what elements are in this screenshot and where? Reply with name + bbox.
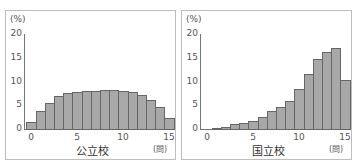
y-unit-label: (%) xyxy=(10,14,26,24)
histogram-bar xyxy=(340,80,350,130)
y-axis xyxy=(24,34,25,129)
histogram-bar xyxy=(164,118,174,130)
x-tick-label: 0 xyxy=(21,132,41,142)
y-unit-label: (%) xyxy=(186,14,202,24)
x-tick-label: 15 xyxy=(335,132,355,142)
y-tick-label: 0 xyxy=(6,123,22,133)
x-tick-label: 10 xyxy=(113,132,133,142)
x-tick-label: 5 xyxy=(243,132,263,142)
y-axis xyxy=(200,34,201,129)
y-tick-label: 0 xyxy=(182,123,198,133)
x-tick-label: 5 xyxy=(67,132,87,142)
x-unit-label: (問) xyxy=(153,143,167,154)
chart-title: 公立校 xyxy=(62,142,122,158)
y-tick-label: 15 xyxy=(182,52,198,62)
x-tick-label: 10 xyxy=(289,132,309,142)
x-tick-label: 15 xyxy=(159,132,179,142)
y-tick-label: 20 xyxy=(182,28,198,38)
chart-title: 国立校 xyxy=(238,142,298,158)
y-tick-label: 5 xyxy=(6,99,22,109)
y-tick-label: 10 xyxy=(182,76,198,86)
y-tick-label: 15 xyxy=(6,52,22,62)
national-school-chart: (%) 05101520051015 国立校 (問) xyxy=(181,10,352,160)
y-tick-label: 10 xyxy=(6,76,22,86)
x-tick-label: 0 xyxy=(197,132,217,142)
y-tick-label: 5 xyxy=(182,99,198,109)
public-school-chart: (%) 05101520051015 公立校 (問) xyxy=(5,10,176,160)
y-tick-label: 20 xyxy=(6,28,22,38)
x-unit-label: (問) xyxy=(329,143,343,154)
